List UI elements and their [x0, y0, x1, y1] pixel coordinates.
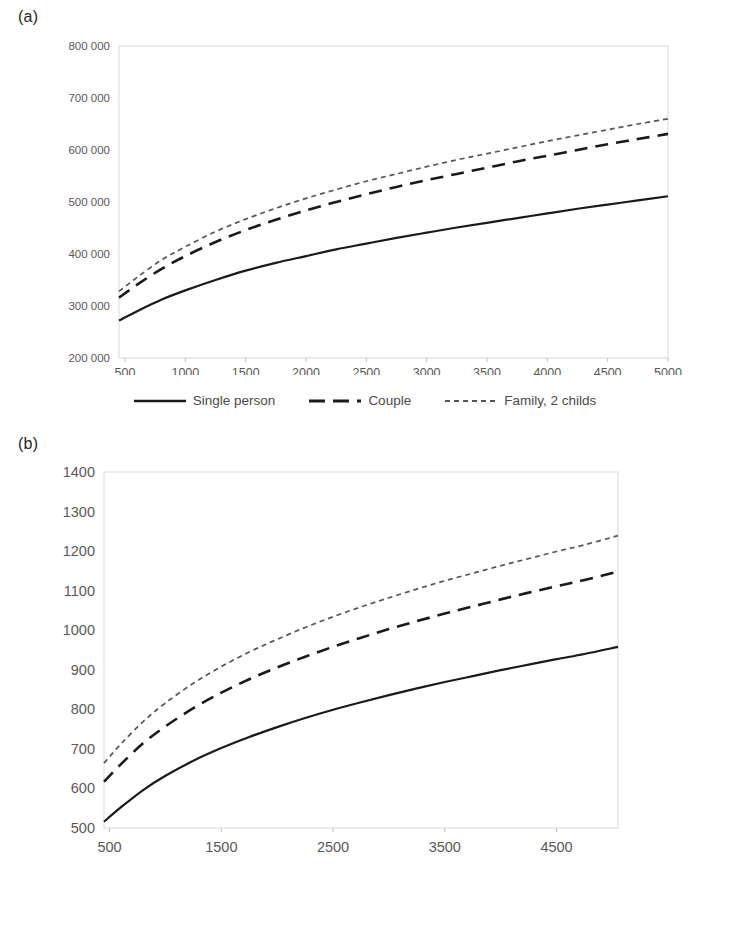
x-axis-tick-label: 2500	[317, 839, 349, 855]
x-axis-tick-label: 1500	[232, 366, 260, 375]
x-axis-tick-label: 3500	[473, 366, 501, 375]
x-axis-tick-label: 4000	[533, 366, 561, 375]
y-axis-tick-label: 1100	[64, 583, 95, 599]
panel-a-label: (a)	[18, 8, 38, 26]
legend-item: Couple	[309, 393, 411, 408]
panel-a: (a) 200 000300 000400 000500 000600 0007…	[0, 0, 730, 430]
legend-swatch-dotted-icon	[445, 395, 497, 407]
y-axis-tick-label: 800	[71, 701, 95, 717]
x-axis-tick-label: 2500	[352, 366, 380, 375]
y-axis-tick-label: 1000	[63, 622, 95, 638]
y-axis-tick-label: 900	[71, 662, 95, 678]
y-axis-tick-label: 300 000	[68, 300, 110, 312]
legend-item: Single person	[134, 393, 276, 408]
y-axis-tick-label: 500 000	[68, 196, 110, 208]
legend-label: Single person	[193, 393, 276, 408]
legend-item: Family, 2 childs	[445, 393, 596, 408]
chart-a-svg: 200 000300 000400 000500 000600 000700 0…	[0, 30, 730, 375]
x-axis-tick-label: 500	[115, 366, 136, 375]
series-line-couple	[104, 572, 618, 782]
y-axis-tick-label: 600	[71, 780, 95, 796]
series-line-family-2-childs	[119, 119, 668, 292]
x-axis-tick-label: 1500	[205, 839, 237, 855]
series-line-single-person	[104, 647, 618, 822]
y-axis-tick-label: 1400	[63, 465, 95, 480]
y-axis-tick-label: 1200	[63, 543, 95, 559]
x-axis-tick-label: 4500	[540, 839, 572, 855]
series-line-family-2-childs	[104, 536, 618, 763]
panel-b: (b) 500600700800900100011001200130014005…	[0, 430, 730, 928]
legend-swatch-solid-icon	[134, 395, 186, 407]
legend-label: Couple	[368, 393, 411, 408]
x-axis-tick-label: 5000	[654, 366, 682, 375]
series-line-single-person	[119, 196, 668, 320]
legend-chart-a: Single personCoupleFamily, 2 childs	[0, 393, 730, 408]
chart-b: 5006007008009001000110012001300140050015…	[0, 465, 730, 880]
x-axis-tick-label: 3500	[429, 839, 461, 855]
y-axis-tick-label: 700 000	[68, 92, 110, 104]
x-axis-tick-label: 1000	[171, 366, 199, 375]
x-axis-tick-label: 3000	[413, 366, 441, 375]
plot-frame	[104, 472, 618, 828]
y-axis-tick-label: 1300	[63, 504, 95, 520]
y-axis-tick-label: 500	[71, 820, 95, 836]
panel-b-label: (b)	[18, 435, 38, 453]
y-axis-tick-label: 200 000	[68, 352, 110, 364]
x-axis-tick-label: 500	[97, 839, 121, 855]
y-axis-tick-label: 400 000	[68, 248, 110, 260]
legend-label: Family, 2 childs	[504, 393, 596, 408]
plot-frame	[119, 46, 668, 358]
series-line-couple	[119, 134, 668, 298]
y-axis-tick-label: 800 000	[68, 40, 110, 52]
x-axis-tick-label: 4500	[594, 366, 622, 375]
chart-a: 200 000300 000400 000500 000600 000700 0…	[0, 30, 730, 375]
x-axis-tick-label: 2000	[292, 366, 320, 375]
y-axis-tick-label: 600 000	[68, 144, 110, 156]
y-axis-tick-label: 700	[71, 741, 95, 757]
chart-b-svg: 5006007008009001000110012001300140050015…	[0, 465, 730, 880]
legend-swatch-dashed-icon	[309, 395, 361, 407]
